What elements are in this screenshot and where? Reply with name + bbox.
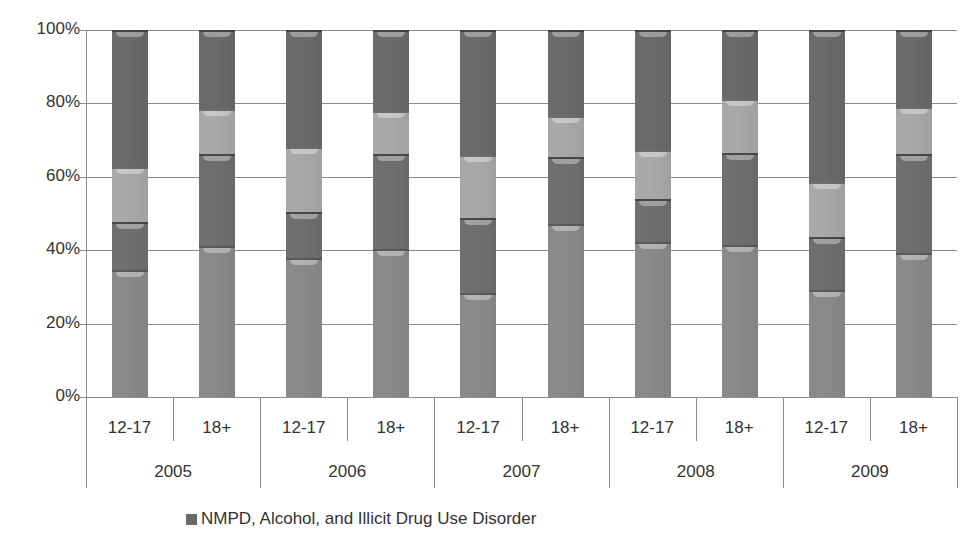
bar-segment xyxy=(548,116,584,157)
y-tick-label: 60% xyxy=(0,166,80,186)
x-subcategory-label: 12-17 xyxy=(86,418,173,438)
bar-segment xyxy=(809,237,845,289)
bar-segment xyxy=(199,30,235,109)
bar-2007-18plus xyxy=(548,30,584,397)
x-subcategory-label: 18+ xyxy=(347,418,434,438)
legend-swatch xyxy=(186,514,197,525)
x-subcategory-label: 12-17 xyxy=(434,418,521,438)
x-group-label: 2008 xyxy=(609,462,783,482)
y-tick-label: 20% xyxy=(0,313,80,333)
legend: NMPD, Alcohol, and Illicit Drug Use Diso… xyxy=(186,509,536,529)
bar-2006-18plus xyxy=(373,30,409,397)
x-axis-tick xyxy=(870,397,871,441)
bar-segment xyxy=(460,218,496,293)
x-subcategory-label: 18+ xyxy=(696,418,783,438)
bar-segment xyxy=(373,249,409,397)
x-axis-tick xyxy=(347,397,348,441)
legend-label: NMPD, Alcohol, and Illicit Drug Use Diso… xyxy=(201,509,536,529)
y-tick-label: 40% xyxy=(0,239,80,259)
x-axis-tick xyxy=(696,397,697,441)
bar-segment xyxy=(896,30,932,107)
bar-segment xyxy=(286,258,322,397)
stacked-bar-chart: 0%20%40%60%80%100% 12-1718+12-1718+12-17… xyxy=(0,0,971,543)
bar-2007-12-17 xyxy=(460,30,496,397)
bar-segment xyxy=(199,246,235,397)
bar-segment xyxy=(460,30,496,155)
x-subcategory-label: 12-17 xyxy=(260,418,347,438)
bar-2009-18plus xyxy=(896,30,932,397)
bar-segment xyxy=(460,155,496,218)
bar-segment xyxy=(635,30,671,150)
bar-segment xyxy=(460,293,496,397)
bar-segment xyxy=(635,199,671,242)
x-group-label: 2006 xyxy=(260,462,434,482)
x-axis-tick xyxy=(957,397,958,488)
x-group-label: 2005 xyxy=(86,462,260,482)
bar-segment xyxy=(373,111,409,154)
y-tick-label: 100% xyxy=(0,19,80,39)
bar-2009-12-17 xyxy=(809,30,845,397)
y-tick-label: 80% xyxy=(0,92,80,112)
bar-segment xyxy=(809,182,845,238)
y-tick-label: 0% xyxy=(0,386,80,406)
bar-segment xyxy=(548,157,584,223)
bar-segment xyxy=(112,270,148,397)
gridline xyxy=(80,397,957,398)
bar-segment xyxy=(112,30,148,167)
bar-segment xyxy=(722,245,758,397)
x-subcategory-label: 12-17 xyxy=(783,418,870,438)
bar-segment xyxy=(548,224,584,397)
x-subcategory-label: 18+ xyxy=(870,418,957,438)
bar-segment xyxy=(199,109,235,155)
bar-segment xyxy=(112,222,148,270)
bar-segment xyxy=(373,30,409,111)
bar-segment xyxy=(896,154,932,253)
x-subcategory-label: 12-17 xyxy=(609,418,696,438)
bar-2005-12-17 xyxy=(112,30,148,397)
bar-2008-12-17 xyxy=(635,30,671,397)
bar-segment xyxy=(373,154,409,249)
x-axis-tick xyxy=(173,397,174,441)
bar-segment xyxy=(722,30,758,99)
bar-2006-12-17 xyxy=(286,30,322,397)
bar-segment xyxy=(112,167,148,222)
bar-segment xyxy=(286,30,322,147)
bar-2008-18plus xyxy=(722,30,758,397)
bar-segment xyxy=(722,99,758,153)
x-group-label: 2009 xyxy=(783,462,957,482)
bar-segment xyxy=(286,212,322,257)
x-subcategory-label: 18+ xyxy=(173,418,260,438)
bar-segment xyxy=(896,253,932,397)
bar-segment xyxy=(722,153,758,244)
bar-segment xyxy=(199,154,235,245)
bar-segment xyxy=(635,150,671,198)
x-axis-tick xyxy=(522,397,523,441)
x-subcategory-label: 18+ xyxy=(522,418,609,438)
bar-segment xyxy=(548,30,584,116)
x-group-label: 2007 xyxy=(434,462,608,482)
bar-segment xyxy=(286,147,322,213)
bar-segment xyxy=(809,30,845,182)
bar-segment xyxy=(896,107,932,154)
bar-segment xyxy=(809,290,845,397)
bar-segment xyxy=(635,242,671,397)
bar-2005-18plus xyxy=(199,30,235,397)
